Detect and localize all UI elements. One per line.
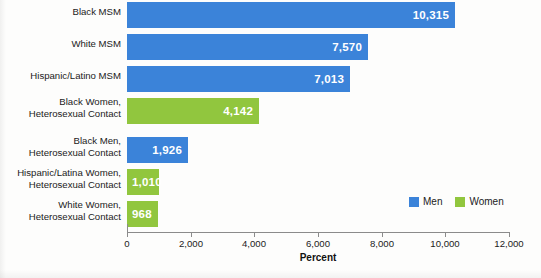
bar-value-label: 7,013 <box>314 73 344 85</box>
bar-men[interactable] <box>127 2 455 28</box>
category-label: White MSM <box>0 38 121 50</box>
bar-row: 4,142 <box>127 98 259 124</box>
x-tick <box>127 232 128 237</box>
legend-swatch-men-icon <box>409 197 419 207</box>
category-label: Hispanic/Latino MSM <box>0 70 121 82</box>
x-tick-label: 10,000 <box>430 238 459 249</box>
legend-item-women[interactable]: Women <box>455 196 503 207</box>
chart-legend: Men Women <box>409 196 504 207</box>
category-label: White Women, Heterosexual Contact <box>0 199 121 222</box>
x-axis-title: Percent <box>127 252 509 263</box>
x-tick-label: 4,000 <box>242 238 266 249</box>
x-tick <box>445 232 446 237</box>
bar-row: 1,010 <box>127 169 159 195</box>
legend-swatch-women-icon <box>455 197 465 207</box>
x-tick-label: 12,000 <box>494 238 523 249</box>
legend-item-men[interactable]: Men <box>409 196 442 207</box>
bar-value-label: 1,926 <box>152 144 182 156</box>
bar-value-label: 7,570 <box>332 41 362 53</box>
category-label: Black Men, Heterosexual Contact <box>0 135 121 158</box>
x-tick <box>191 232 192 237</box>
x-tick <box>509 232 510 237</box>
category-label-column: Black MSMWhite MSMHispanic/Latino MSMBla… <box>0 0 121 232</box>
x-tick <box>254 232 255 237</box>
bar-row: 1,926 <box>127 137 188 163</box>
x-tick-label: 6,000 <box>306 238 330 249</box>
bar-value-label: 968 <box>132 208 152 220</box>
bar-value-label: 4,142 <box>223 105 253 117</box>
bar-row: 10,315 <box>127 2 455 28</box>
bar-value-label: 1,010 <box>132 176 162 188</box>
bar-row: 7,570 <box>127 34 368 60</box>
category-label: Black MSM <box>0 6 121 18</box>
bar-value-label: 10,315 <box>413 9 449 21</box>
x-tick <box>382 232 383 237</box>
x-tick-label: 8,000 <box>370 238 394 249</box>
category-label: Hispanic/Latina Women, Heterosexual Cont… <box>0 167 121 190</box>
bar-chart: Black MSMWhite MSMHispanic/Latino MSMBla… <box>0 0 541 278</box>
x-tick-label: 2,000 <box>179 238 203 249</box>
x-tick <box>318 232 319 237</box>
legend-label-women: Women <box>469 196 503 207</box>
category-label: Black Women, Heterosexual Contact <box>0 96 121 119</box>
legend-label-men: Men <box>423 196 442 207</box>
bar-row: 968 <box>127 201 158 227</box>
page-edge-shadow-bottom <box>0 270 541 278</box>
bar-row: 7,013 <box>127 66 350 92</box>
x-tick-label: 0 <box>124 238 129 249</box>
